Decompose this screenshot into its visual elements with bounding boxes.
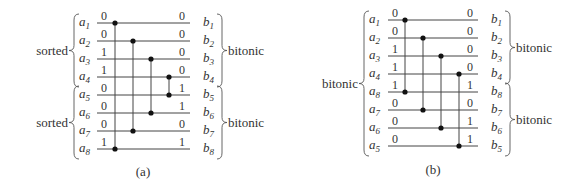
output-label: b3 [491, 47, 503, 64]
output-value: 0 [467, 6, 473, 20]
input-value: 0 [392, 96, 398, 110]
comparator-node [456, 71, 461, 76]
input-label: a4 [79, 68, 91, 85]
input-value: 0 [101, 9, 107, 23]
left-group-label: sorted [36, 43, 68, 58]
input-value: 0 [392, 6, 398, 20]
input-value: 0 [101, 27, 107, 41]
comparator-node [402, 89, 407, 94]
left-brace [69, 14, 79, 87]
output-value: 0 [179, 117, 185, 131]
output-label: b4 [491, 65, 503, 82]
output-label: b1 [491, 11, 502, 28]
input-value: 0 [392, 114, 398, 128]
right-brace [505, 83, 515, 156]
input-label: a5 [369, 137, 381, 154]
output-label: b1 [203, 14, 214, 31]
output-label: b2 [203, 32, 215, 49]
input-value: 1 [392, 42, 398, 56]
input-label: a4 [369, 65, 381, 82]
input-value: 0 [101, 81, 107, 95]
input-label: a3 [79, 50, 91, 67]
output-label: b7 [203, 122, 215, 139]
comparator-node [166, 74, 171, 79]
panel-b: a100b1a200b2a310b3a410b4a811b8a700b7a601… [322, 6, 552, 177]
input-label: a2 [369, 29, 381, 46]
comparator [130, 38, 135, 133]
left-brace [69, 86, 79, 159]
panel-caption: (b) [425, 162, 440, 177]
bitonic-sorting-network-diagram: a100b1a200b2a310b3a410b4a501b5a601b6a700… [0, 0, 576, 187]
right-brace [505, 11, 515, 84]
comparator-node [438, 125, 443, 130]
output-value: 0 [179, 63, 185, 77]
comparator-node [112, 146, 117, 151]
output-value: 1 [179, 99, 185, 113]
input-label: a7 [369, 101, 381, 118]
output-value: 0 [179, 27, 185, 41]
left-group-label: sorted [36, 115, 68, 130]
input-value: 0 [101, 99, 107, 113]
input-label: a6 [79, 104, 91, 121]
output-value: 1 [179, 135, 185, 149]
output-label: b5 [491, 137, 503, 154]
output-label: b5 [203, 86, 215, 103]
comparator [148, 56, 153, 115]
input-value: 0 [392, 24, 398, 38]
comparator-node [148, 56, 153, 61]
output-label: b6 [491, 119, 503, 136]
comparator-node [402, 17, 407, 22]
comparator-node [130, 128, 135, 133]
input-label: a7 [79, 122, 91, 139]
input-label: a6 [369, 119, 381, 136]
comparator-node [420, 35, 425, 40]
input-label: a5 [79, 86, 91, 103]
input-label: a1 [369, 11, 380, 28]
right-brace [217, 14, 227, 87]
input-value: 1 [101, 135, 107, 149]
output-value: 0 [467, 96, 473, 110]
comparator [166, 74, 171, 97]
output-label: b8 [203, 140, 215, 157]
right-group-label: bitonic [228, 43, 264, 58]
input-value: 1 [101, 63, 107, 77]
comparator-node [456, 143, 461, 148]
input-label: a2 [79, 32, 91, 49]
input-label: a8 [79, 140, 91, 157]
input-label: a3 [369, 47, 381, 64]
input-value: 0 [392, 132, 398, 146]
right-group-label: bitonic [228, 115, 264, 130]
output-label: b8 [491, 83, 503, 100]
output-value: 0 [467, 42, 473, 56]
output-value: 1 [467, 114, 473, 128]
comparator-node [148, 110, 153, 115]
output-label: b6 [203, 104, 215, 121]
right-group-label: bitonic [516, 40, 552, 55]
input-value: 1 [101, 45, 107, 59]
output-value: 0 [467, 24, 473, 38]
input-label: a8 [369, 83, 381, 100]
input-value: 0 [101, 117, 107, 131]
output-value: 1 [467, 78, 473, 92]
right-brace [217, 86, 227, 159]
comparator-node [112, 20, 117, 25]
output-label: b7 [491, 101, 503, 118]
output-value: 1 [179, 81, 185, 95]
input-value: 1 [392, 78, 398, 92]
output-label: b4 [203, 68, 215, 85]
right-group-label: bitonic [516, 112, 552, 127]
input-label: a1 [79, 14, 90, 31]
comparator-node [438, 53, 443, 58]
output-value: 0 [179, 9, 185, 23]
comparator-node [166, 92, 171, 97]
panel-caption: (a) [136, 164, 150, 179]
panel-a: a100b1a200b2a310b3a410b4a501b5a601b6a700… [36, 9, 264, 179]
output-value: 0 [467, 60, 473, 74]
output-label: b3 [203, 50, 215, 67]
output-value: 0 [179, 45, 185, 59]
comparator-node [130, 38, 135, 43]
output-value: 1 [467, 132, 473, 146]
input-value: 1 [392, 60, 398, 74]
comparator-node [420, 107, 425, 112]
left-group-label: bitonic [322, 76, 358, 91]
